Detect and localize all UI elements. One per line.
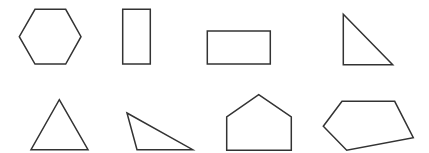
shapes-diagram bbox=[0, 0, 429, 153]
diagram-background bbox=[0, 0, 429, 153]
